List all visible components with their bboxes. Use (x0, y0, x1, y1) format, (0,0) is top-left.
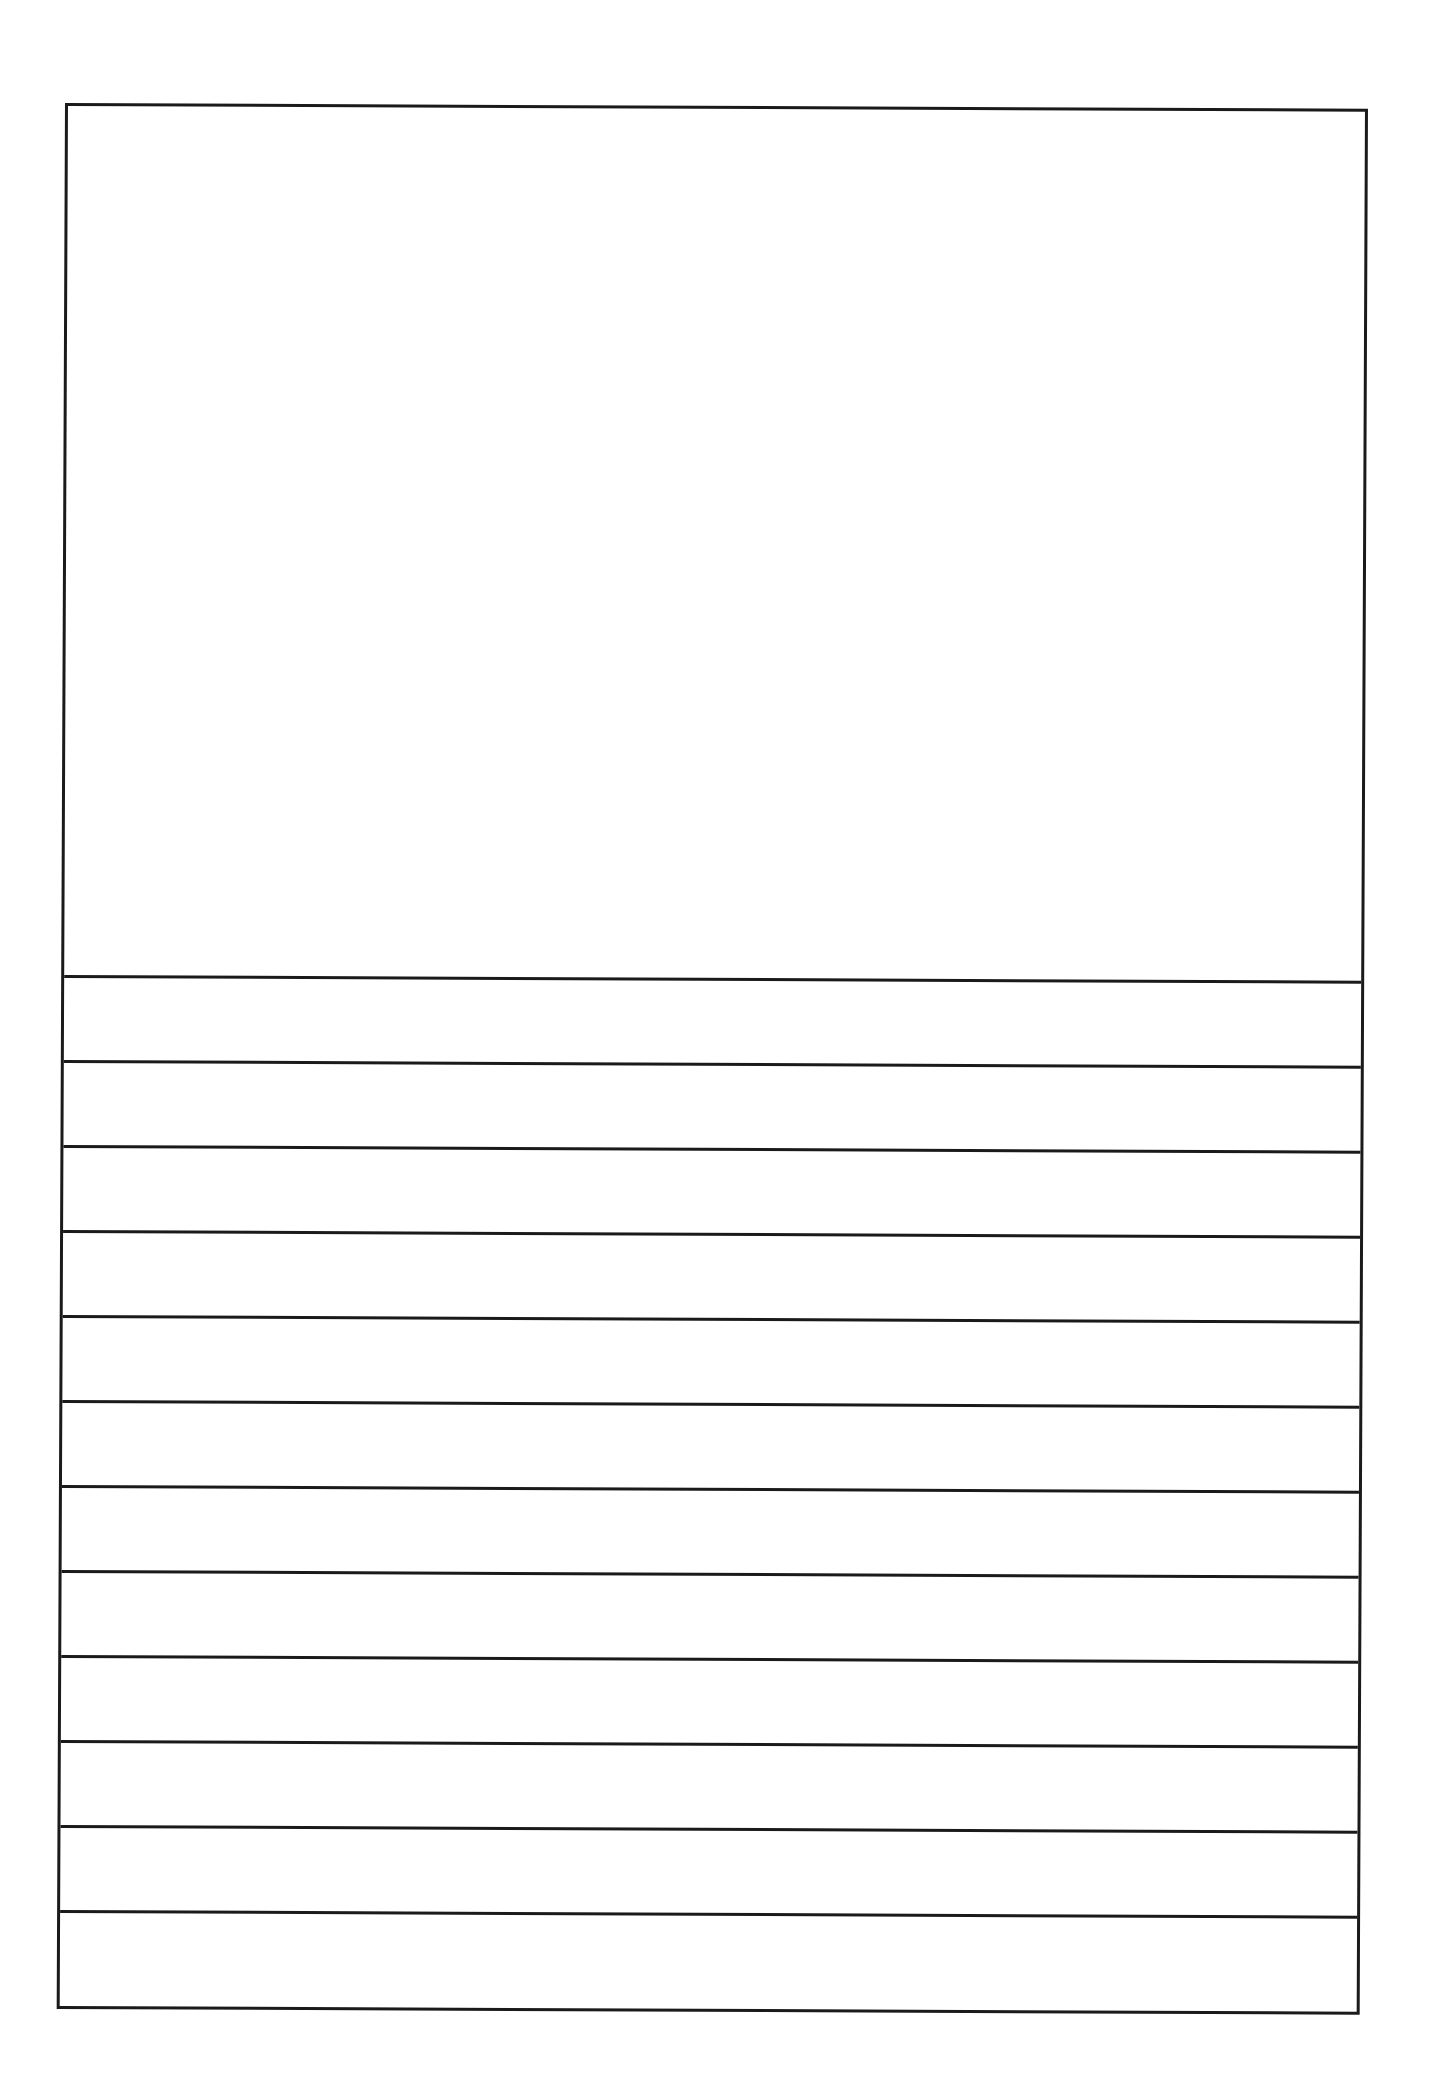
writing-template-sheet (57, 103, 1368, 2015)
writing-line (63, 1148, 1360, 1239)
writing-line (62, 1318, 1359, 1409)
writing-line (64, 978, 1361, 1069)
writing-line (62, 1403, 1359, 1494)
drawing-box (64, 106, 1365, 984)
writing-line (60, 1828, 1357, 1919)
writing-line (63, 1063, 1360, 1154)
writing-line (61, 1573, 1358, 1664)
writing-line (63, 1233, 1360, 1324)
writing-lines-area (60, 978, 1361, 2012)
writing-line (61, 1658, 1358, 1749)
writing-line (62, 1488, 1359, 1579)
writing-line (60, 1743, 1357, 1834)
writing-line (60, 1913, 1357, 2012)
